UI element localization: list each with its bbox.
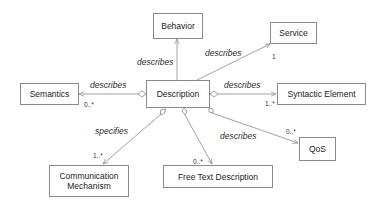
class-behavior: Behavior (153, 13, 203, 39)
aggregation-diamond-syntactic (210, 91, 218, 97)
multiplicity-syntactic-element: 1..* (265, 100, 275, 107)
class-communication-mechanism-line1: Communication (59, 171, 118, 181)
class-communication-mechanism: Communication Mechanism (49, 165, 129, 197)
multiplicity-communication-mechanism: 1..* (93, 152, 103, 159)
assoc-label-communication-mechanism: specifies (95, 126, 128, 136)
uml-diagram: Behavior Service Semantics Description S… (0, 0, 387, 203)
multiplicity-service: 1 (272, 53, 276, 60)
class-semantics: Semantics (20, 83, 79, 105)
aggregation-diamond-qos (209, 108, 213, 113)
multiplicity-semantics: 0..* (84, 101, 94, 108)
class-behavior-label: Behavior (161, 21, 195, 31)
class-free-text-description: Free Text Description (163, 165, 273, 188)
assoc-label-qos: describes (220, 131, 256, 141)
class-description: Description (146, 80, 210, 108)
class-service: Service (270, 22, 317, 44)
assoc-label-service: describes (205, 48, 241, 58)
aggregation-diamond-semantics (138, 91, 146, 97)
assoc-label-syntactic-element: describes (224, 80, 260, 90)
class-qos: QoS (299, 137, 336, 161)
class-syntactic-element-label: Syntactic Element (287, 89, 355, 99)
multiplicity-qos: 0..* (286, 128, 296, 135)
class-service-label: Service (279, 28, 307, 38)
class-communication-mechanism-line2: Mechanism (67, 181, 110, 191)
class-semantics-label: Semantics (30, 89, 70, 99)
assoc-label-behavior: describes (137, 57, 173, 67)
class-description-label: Description (157, 89, 200, 99)
multiplicity-free-text-description: 0..* (193, 158, 203, 165)
class-qos-label: QoS (309, 144, 326, 154)
class-syntactic-element: Syntactic Element (277, 83, 366, 105)
assoc-label-semantics: describes (90, 80, 126, 90)
aggregation-diamond-free-text (182, 108, 187, 115)
class-free-text-description-label: Free Text Description (178, 172, 258, 182)
